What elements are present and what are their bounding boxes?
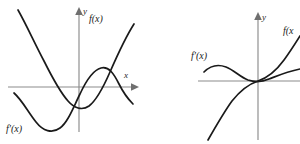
right-graph-svg: y f(x f'(x): [150, 0, 300, 144]
right-curve-f: [208, 36, 300, 140]
left-graph-svg: x y f(x) f'(x): [0, 0, 150, 144]
left-graph-panel: x y f(x) f'(x): [0, 0, 150, 144]
left-curve-f-prime: [14, 68, 133, 131]
right-y-axis-arrow: [254, 12, 262, 20]
left-x-axis-arrow: [131, 83, 139, 91]
left-y-axis-label: y: [82, 6, 87, 16]
right-y-axis-label: y: [261, 12, 266, 22]
figure-root: x y f(x) f'(x) y f(x f'(x): [0, 0, 300, 144]
right-curve-f-prime: [204, 66, 300, 82]
right-graph-panel: y f(x f'(x): [150, 0, 300, 144]
left-x-axis-label: x: [123, 70, 128, 80]
left-curve-f: [18, 10, 134, 108]
left-label-f-prime: f'(x): [6, 123, 23, 135]
right-label-f: f(x: [283, 25, 294, 37]
left-label-f: f(x): [89, 13, 104, 25]
left-y-axis-arrow: [75, 7, 83, 15]
right-label-f-prime: f'(x): [191, 50, 208, 62]
